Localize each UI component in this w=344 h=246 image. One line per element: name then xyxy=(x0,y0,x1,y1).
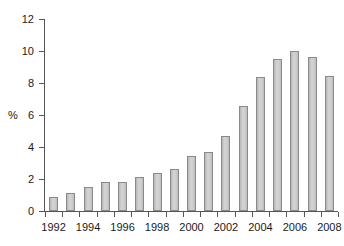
y-axis-tick-label: 0 xyxy=(0,206,34,217)
y-axis-tick-label-text: 8 xyxy=(0,78,34,89)
x-axis-tick xyxy=(97,212,98,217)
y-axis-tick-label: 10 xyxy=(0,46,34,57)
bar xyxy=(204,152,213,211)
y-axis-tick-label-text: 12 xyxy=(0,14,34,25)
x-axis-tick xyxy=(114,212,115,217)
bar xyxy=(66,193,75,211)
x-axis-tick xyxy=(79,212,80,217)
bar xyxy=(308,57,317,211)
x-axis-tick xyxy=(148,212,149,217)
bar xyxy=(273,59,282,211)
y-axis-tick-label-text: 4 xyxy=(0,142,34,153)
x-axis-tick-label: 2000 xyxy=(179,221,203,233)
y-axis-tick xyxy=(39,115,44,116)
y-axis-tick xyxy=(39,51,44,52)
x-axis-tick xyxy=(321,212,322,217)
bar xyxy=(187,156,196,211)
x-axis-tick xyxy=(338,212,339,217)
y-axis-tick xyxy=(39,83,44,84)
plot-area xyxy=(45,19,338,211)
x-axis-tick xyxy=(166,212,167,217)
bar xyxy=(256,77,265,211)
y-axis-tick xyxy=(39,147,44,148)
y-axis-tick-label: 2 xyxy=(0,174,34,185)
y-axis-tick xyxy=(39,19,44,20)
bar xyxy=(135,177,144,211)
x-axis-tick-label: 1992 xyxy=(41,221,65,233)
x-axis-tick xyxy=(62,212,63,217)
y-axis-tick-label: 4 xyxy=(0,142,34,153)
x-axis-tick xyxy=(286,212,287,217)
bar xyxy=(84,187,93,211)
bar-chart: % 024681012 1992199419961998200020022004… xyxy=(0,0,344,246)
x-axis-tick-label: 1996 xyxy=(110,221,134,233)
bar xyxy=(325,76,334,211)
y-axis-tick-label: 8 xyxy=(0,78,34,89)
x-axis-tick xyxy=(235,212,236,217)
bar xyxy=(170,169,179,211)
x-axis-tick-label: 1994 xyxy=(76,221,100,233)
y-axis-tick-label-text: 2 xyxy=(0,174,34,185)
x-axis-tick-label: 2004 xyxy=(248,221,272,233)
x-axis-tick xyxy=(217,212,218,217)
x-axis-tick-label: 2002 xyxy=(214,221,238,233)
bar xyxy=(49,197,58,211)
x-axis-tick xyxy=(252,212,253,217)
bar xyxy=(101,182,110,211)
bar xyxy=(118,182,127,211)
y-axis-tick-label: 12 xyxy=(0,14,34,25)
bar xyxy=(153,173,162,211)
x-axis-tick xyxy=(304,212,305,217)
x-axis-tick xyxy=(183,212,184,217)
bar xyxy=(239,106,248,211)
y-axis-tick-label-text: 0 xyxy=(0,206,34,217)
x-axis-line xyxy=(44,211,338,212)
x-axis-tick-label: 1998 xyxy=(145,221,169,233)
x-axis-tick xyxy=(200,212,201,217)
bar xyxy=(290,51,299,211)
x-axis-tick xyxy=(269,212,270,217)
x-axis-tick-label: 2008 xyxy=(317,221,341,233)
y-axis-tick xyxy=(39,211,44,212)
y-axis-tick xyxy=(39,179,44,180)
bar xyxy=(221,136,230,211)
y-axis-tick-label-text: 10 xyxy=(0,46,34,57)
x-axis-tick xyxy=(131,212,132,217)
y-axis-tick-label-text: 6 xyxy=(0,110,34,121)
x-axis-tick xyxy=(45,212,46,217)
x-axis-tick-label: 2006 xyxy=(283,221,307,233)
y-axis-tick-label: 6 xyxy=(0,110,34,121)
